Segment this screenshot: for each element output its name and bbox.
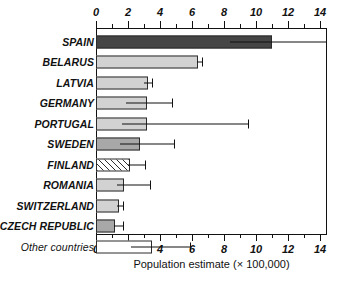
chart-row: GERMANY [0, 93, 341, 114]
category-label-latvia: LATVIA [56, 77, 94, 89]
x-axis-title: Population estimate (× 100,000) [96, 258, 327, 270]
chart-row: Other countries [0, 236, 341, 257]
error-cap-portugal [248, 119, 249, 128]
bar-finland [96, 158, 130, 171]
x-minor-tick-top-13 [304, 24, 305, 28]
x-tick-top-12 [288, 21, 289, 28]
chart-row: BELARUS [0, 52, 341, 73]
category-label-belarus: BELARUS [43, 56, 94, 68]
error-cap-germany [172, 99, 173, 108]
chart-row: LATVIA [0, 72, 341, 93]
x-tick-top-0 [96, 21, 97, 28]
bar-belarus [96, 56, 198, 69]
x-tick-label-top-0: 0 [93, 6, 99, 18]
x-tick-label-top-4: 4 [157, 6, 163, 18]
x-minor-tick-top-3 [144, 24, 145, 28]
error-bar-czech-republic [114, 226, 124, 227]
category-label-romania: ROMANIA [43, 179, 94, 191]
x-tick-top-4 [160, 21, 161, 28]
category-label-switzerland: SWITZERLAND [16, 200, 94, 212]
category-label-other-countries: Other countries [21, 241, 94, 253]
error-cap-czech-republic [123, 222, 124, 231]
bar-latvia [96, 76, 148, 89]
x-tick-top-10 [256, 21, 257, 28]
x-tick-label-top-10: 10 [250, 6, 262, 18]
error-bar-sweden [120, 144, 174, 145]
category-label-czech-republic: CZECH REPUBLIC [0, 220, 94, 232]
error-bar-finland [128, 164, 145, 165]
category-label-germany: GERMANY [40, 97, 94, 109]
chart-row: SWITZERLAND [0, 195, 341, 216]
x-minor-tick-top-11 [272, 24, 273, 28]
error-cap-switzerland [123, 201, 124, 210]
chart-row: SWEDEN [0, 134, 341, 155]
error-cap-sweden [174, 140, 175, 149]
category-label-finland: FINLAND [47, 159, 94, 171]
error-bar-germany [126, 103, 172, 104]
error-cap-latvia [152, 78, 153, 87]
category-label-portugal: PORTUGAL [34, 118, 94, 130]
x-tick-top-2 [128, 21, 129, 28]
error-bar-romania [117, 185, 151, 186]
bar-czech-republic [96, 220, 115, 233]
error-bar-other-countries [131, 246, 189, 247]
bar-switzerland [96, 199, 119, 212]
error-cap-other-countries [190, 242, 191, 251]
x-tick-top-14 [320, 21, 321, 28]
x-tick-top-6 [192, 21, 193, 28]
error-bar-portugal [122, 123, 248, 124]
x-tick-label-top-12: 12 [282, 6, 294, 18]
bar-chart: 0246810121402468101214SPAINBELARUSLATVIA… [0, 0, 341, 285]
category-label-sweden: SWEDEN [47, 138, 94, 150]
top-axis-line [96, 28, 326, 29]
x-minor-tick-top-9 [240, 24, 241, 28]
x-minor-tick-top-5 [176, 24, 177, 28]
x-tick-label-top-14: 14 [314, 6, 326, 18]
error-cap-belarus [202, 58, 203, 67]
chart-row: ROMANIA [0, 175, 341, 196]
category-label-spain: SPAIN [62, 36, 94, 48]
error-cap-finland [145, 160, 146, 169]
chart-row: PORTUGAL [0, 113, 341, 134]
x-tick-label-top-8: 8 [221, 6, 227, 18]
x-tick-label-top-6: 6 [189, 6, 195, 18]
error-bar-latvia [144, 82, 152, 83]
error-bar-spain [230, 41, 326, 42]
x-tick-top-8 [224, 21, 225, 28]
chart-row: SPAIN [0, 31, 341, 52]
x-minor-tick-top-1 [112, 24, 113, 28]
x-tick-label-top-2: 2 [125, 6, 131, 18]
chart-row: FINLAND [0, 154, 341, 175]
x-minor-tick-top-7 [208, 24, 209, 28]
error-cap-spain [326, 37, 327, 46]
error-cap-romania [150, 181, 151, 190]
chart-row: CZECH REPUBLIC [0, 216, 341, 237]
